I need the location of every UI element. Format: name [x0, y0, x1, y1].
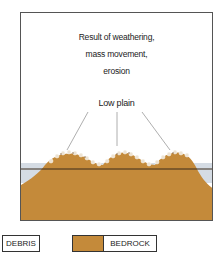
- terrain-illustration: [21, 13, 213, 221]
- legend-debris: DEBRIS: [2, 235, 40, 252]
- legend-bedrock: BEDROCK: [103, 235, 157, 252]
- pointer-line-right: [142, 112, 170, 150]
- legend-bedrock-swatch: [72, 235, 104, 252]
- pointer-line-left: [67, 112, 88, 150]
- legend-debris-label: DEBRIS: [6, 239, 36, 248]
- legend-bedrock-label: BEDROCK: [110, 239, 150, 248]
- diagram-frame: Result of weathering, mass movement, ero…: [20, 12, 213, 221]
